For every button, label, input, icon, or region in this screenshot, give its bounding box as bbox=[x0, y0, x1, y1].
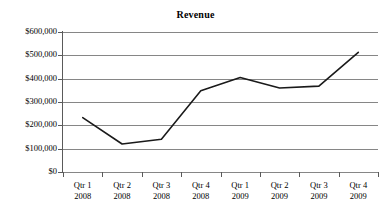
y-axis-tick-label: $100,000 bbox=[1, 144, 57, 153]
y-axis-tick bbox=[58, 102, 63, 103]
y-axis-tick bbox=[58, 55, 63, 56]
y-axis-tick-label: $400,000 bbox=[1, 74, 57, 83]
gridline bbox=[63, 125, 378, 126]
gridline bbox=[63, 55, 378, 56]
x-axis-tick bbox=[299, 172, 300, 177]
y-axis-tick-label: $500,000 bbox=[1, 50, 57, 59]
gridline bbox=[63, 149, 378, 150]
x-axis-tick bbox=[221, 172, 222, 177]
gridline bbox=[63, 102, 378, 103]
x-axis-category-line: 2009 bbox=[332, 191, 384, 202]
y-axis-tick-label: $200,000 bbox=[1, 120, 57, 129]
x-axis-category-label: Qtr 42009 bbox=[332, 180, 384, 202]
y-axis-tick-label: $0 bbox=[1, 167, 57, 176]
gridline bbox=[63, 32, 378, 33]
y-axis-tick bbox=[58, 32, 63, 33]
chart-title: Revenue bbox=[0, 9, 391, 21]
y-axis-tick-label: $300,000 bbox=[1, 97, 57, 106]
x-axis-tick bbox=[260, 172, 261, 177]
x-axis-tick bbox=[339, 172, 340, 177]
x-axis-tick bbox=[378, 172, 379, 177]
x-axis-tick bbox=[63, 172, 64, 177]
x-axis-category-line: Qtr 4 bbox=[332, 180, 384, 191]
y-axis-tick bbox=[58, 79, 63, 80]
revenue-line-chart: Revenue $0$100,000$200,000$300,000$400,0… bbox=[0, 0, 391, 216]
y-axis-tick-label: $600,000 bbox=[1, 27, 57, 36]
y-axis-tick bbox=[58, 149, 63, 150]
gridline bbox=[63, 79, 378, 80]
y-axis-tick bbox=[58, 125, 63, 126]
x-axis-tick bbox=[181, 172, 182, 177]
x-axis-tick bbox=[102, 172, 103, 177]
x-axis-tick bbox=[142, 172, 143, 177]
